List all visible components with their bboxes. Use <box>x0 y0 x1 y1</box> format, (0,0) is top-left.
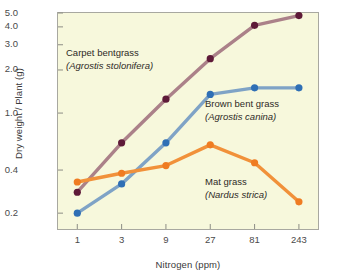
annotation-common-name: Brown bent grass <box>205 98 279 111</box>
x-tick-label: 81 <box>235 234 275 245</box>
series-annotation-mat-grass: Mat grass (Nardus strica) <box>205 176 267 201</box>
chart-figure: 5.0 4.0 3.0 2.0 1.0 0.4 0.2 1 3 9 27 81 … <box>0 0 341 279</box>
y-axis-title: Dry weight / Plant (g) <box>13 34 24 194</box>
annotation-scientific-name: (Agrostis canina) <box>205 111 279 124</box>
x-tick-label: 9 <box>146 234 186 245</box>
y-tick-label: 0.2 <box>0 207 18 218</box>
plot-area <box>57 12 319 230</box>
y-tick-label: 5.0 <box>0 7 18 18</box>
annotation-scientific-name: (Nardus strica) <box>205 189 267 202</box>
annotation-scientific-name: (Agrostis stolonifera) <box>66 60 153 73</box>
x-tick-label: 1 <box>57 234 97 245</box>
x-tick-label: 243 <box>279 234 319 245</box>
y-tick-label: 4.0 <box>0 20 18 31</box>
x-tick-label: 3 <box>102 234 142 245</box>
annotation-common-name: Carpet bentgrass <box>66 47 153 60</box>
annotation-common-name: Mat grass <box>205 176 267 189</box>
x-tick-label: 27 <box>190 234 230 245</box>
x-axis-title: Nitrogen (ppm) <box>57 259 319 270</box>
series-annotation-brown-bent-grass: Brown bent grass (Agrostis canina) <box>205 98 279 123</box>
series-annotation-carpet-bentgrass: Carpet bentgrass (Agrostis stolonifera) <box>66 47 153 72</box>
